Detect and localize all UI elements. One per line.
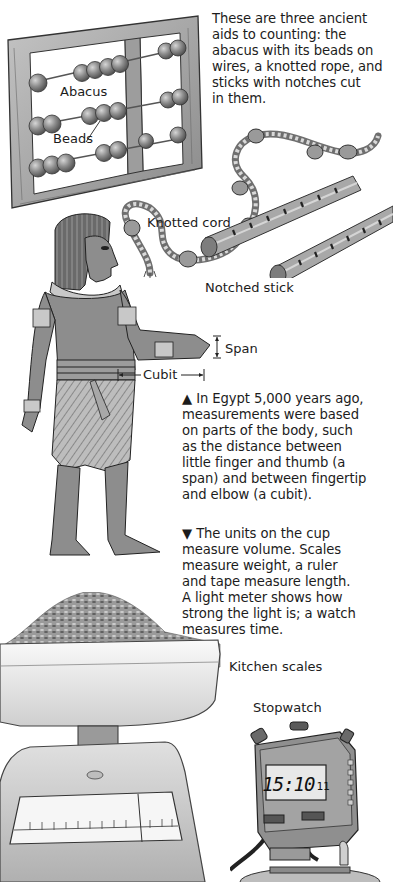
up-triangle-icon: ▲ xyxy=(182,391,192,406)
kitchen-scales-illustration xyxy=(0,592,225,882)
egyptian-figure-illustration xyxy=(10,210,210,560)
span-marker xyxy=(212,335,222,359)
egypt-caption-line: and elbow (a cubit). xyxy=(182,487,393,503)
intro-line: sticks with notches cut xyxy=(212,75,392,91)
egypt-caption: ▲ In Egypt 5,000 years ago, measurements… xyxy=(182,391,393,503)
intro-line: wires, a knotted rope, and xyxy=(212,59,392,75)
egypt-caption-line: measurements were based xyxy=(182,407,393,423)
units-caption-line: The units on the cup xyxy=(196,526,330,541)
egypt-caption-line: In Egypt 5,000 years ago, xyxy=(196,391,363,406)
notched-stick-label: Notched stick xyxy=(205,280,294,295)
kitchen-scales-label: Kitchen scales xyxy=(229,659,322,674)
egypt-caption-line: little finger and thumb (a xyxy=(182,455,393,471)
units-caption-line: and tape measure length. xyxy=(182,574,393,590)
cubit-label: Cubit xyxy=(142,367,178,382)
egypt-caption-line: span) and between fingertip xyxy=(182,471,393,487)
stopwatch-hundredths: 11 xyxy=(316,780,329,793)
stopwatch-illustration xyxy=(230,720,393,882)
units-caption-line: measure volume. Scales xyxy=(182,542,393,558)
intro-line: in them. xyxy=(212,91,392,107)
stopwatch-label: Stopwatch xyxy=(253,700,322,715)
down-triangle-icon: ▼ xyxy=(182,526,192,541)
units-caption-line: measure weight, a ruler xyxy=(182,558,393,574)
beads-label: Beads xyxy=(53,131,93,146)
intro-line: abacus with its beads on xyxy=(212,43,392,59)
encyclopedia-page: Abacus Beads These are three ancient aid… xyxy=(0,0,393,882)
stopwatch-lcd: 15:10 11 xyxy=(266,766,326,801)
egypt-caption-line: on parts of the body, such xyxy=(182,423,393,439)
notched-sticks-illustration xyxy=(195,168,393,278)
abacus-label: Abacus xyxy=(60,84,107,99)
intro-caption: These are three ancient aids to counting… xyxy=(212,11,392,107)
intro-line: aids to counting: the xyxy=(212,27,392,43)
egypt-caption-line: as the distance between xyxy=(182,439,393,455)
span-label: Span xyxy=(225,341,258,356)
stopwatch-time: 15:10 xyxy=(262,773,314,795)
intro-line: These are three ancient xyxy=(212,11,392,27)
